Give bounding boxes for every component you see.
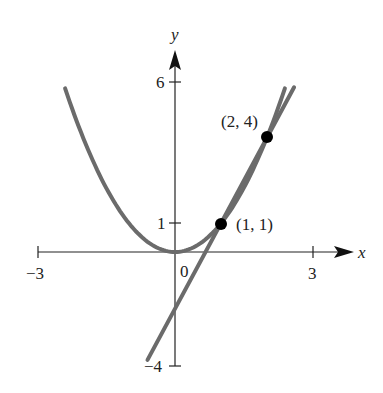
point-2-4 <box>261 131 273 143</box>
point-label-2-4: (2, 4) <box>221 112 258 131</box>
chart-plot: y x −3 3 6 1 −4 0 (1, 1) (2, 4) <box>0 0 383 393</box>
tick-label-neg3: −3 <box>26 264 44 283</box>
x-axis-label: x <box>357 243 366 262</box>
y-axis-label: y <box>169 25 179 44</box>
point-1-1 <box>215 218 227 230</box>
tick-label-neg4: −4 <box>144 357 163 376</box>
tick-label-1: 1 <box>157 214 166 233</box>
origin-label: 0 <box>180 262 189 281</box>
tick-label-6: 6 <box>156 73 165 92</box>
point-label-1-1: (1, 1) <box>236 215 273 234</box>
tick-label-3: 3 <box>308 264 317 283</box>
